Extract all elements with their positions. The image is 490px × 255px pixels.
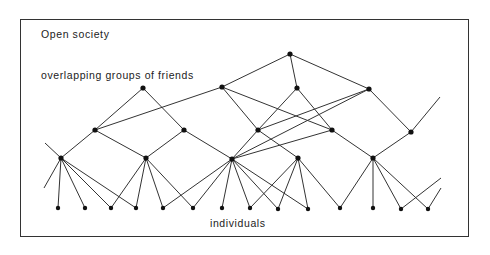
group-node: [408, 129, 413, 134]
group-node: [255, 127, 260, 132]
group-node: [295, 155, 300, 160]
individual-node: [56, 206, 60, 210]
open-edge: [401, 178, 441, 209]
edge: [95, 87, 222, 130]
edge: [373, 158, 401, 209]
groups-label: overlapping groups of friends: [41, 69, 194, 81]
individual-node: [134, 206, 138, 210]
edge: [222, 159, 232, 208]
individual-node: [248, 206, 252, 210]
edge: [290, 54, 297, 88]
open-edge: [45, 143, 61, 158]
individuals-label: individuals: [210, 217, 266, 229]
edge: [332, 130, 373, 158]
group-node: [229, 156, 234, 161]
edge: [340, 158, 373, 208]
edge: [250, 158, 298, 208]
individual-node: [306, 207, 310, 211]
diagram-title: Open society: [41, 28, 109, 40]
edge: [146, 130, 184, 158]
edge: [222, 87, 258, 130]
group-node: [58, 155, 63, 160]
individual-node: [220, 206, 224, 210]
edge: [143, 88, 184, 130]
edge: [232, 159, 278, 209]
edge: [232, 130, 332, 159]
edge: [146, 158, 163, 208]
edge: [369, 89, 411, 132]
edge: [232, 130, 258, 159]
edge: [278, 158, 298, 209]
edge: [298, 158, 308, 209]
group-node: [181, 127, 186, 132]
edge: [193, 159, 232, 208]
edge: [58, 158, 61, 208]
group-node: [329, 127, 334, 132]
edge: [61, 130, 95, 158]
group-node: [370, 155, 375, 160]
individual-node: [338, 206, 342, 210]
group-node: [92, 127, 97, 132]
edge: [373, 132, 411, 158]
individual-node: [399, 207, 403, 211]
individual-node: [83, 206, 87, 210]
individual-node: [426, 207, 430, 211]
individual-node: [276, 207, 280, 211]
group-node: [294, 85, 299, 90]
edge: [258, 130, 298, 158]
edge: [290, 54, 369, 89]
open-edge: [428, 188, 441, 209]
individual-node: [191, 206, 195, 210]
edge: [61, 158, 111, 208]
edge: [222, 54, 290, 87]
individual-node: [109, 206, 113, 210]
edge: [373, 158, 428, 209]
edge: [146, 158, 193, 208]
group-node: [143, 155, 148, 160]
edge: [258, 89, 369, 130]
individual-node: [161, 206, 165, 210]
edge: [258, 88, 297, 130]
edge: [95, 88, 143, 130]
group-node: [366, 86, 371, 91]
edge: [95, 130, 146, 158]
group-node: [219, 84, 224, 89]
individual-node: [371, 206, 375, 210]
edge: [232, 159, 250, 208]
edge: [298, 158, 340, 208]
edge: [163, 159, 232, 208]
group-node: [140, 85, 145, 90]
edge: [184, 130, 232, 159]
group-node: [287, 51, 292, 56]
edge: [61, 158, 136, 208]
edge: [232, 159, 308, 209]
open-edge: [44, 158, 61, 188]
open-edge: [411, 97, 440, 132]
